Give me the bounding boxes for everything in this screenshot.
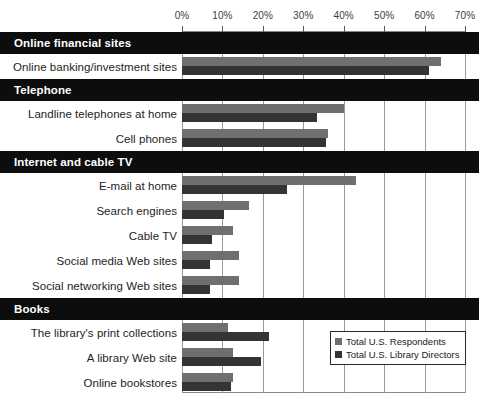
- group-header-row: Telephone: [0, 79, 479, 101]
- bar-total-us-library-directors: [182, 357, 261, 366]
- category-label: Search engines: [96, 205, 177, 217]
- bar-pair: [182, 198, 479, 223]
- x-axis-tick-mark: [263, 26, 264, 32]
- category-label: Cable TV: [129, 230, 177, 242]
- bar-pair: [182, 248, 479, 273]
- bar-total-us-respondents: [182, 201, 249, 210]
- group-header-row: Books: [0, 298, 479, 320]
- category-label: Cell phones: [116, 133, 177, 145]
- category-label: The library's print collections: [31, 327, 177, 339]
- category-label: E-mail at home: [99, 180, 177, 192]
- bar-total-us-library-directors: [182, 382, 231, 391]
- bar-total-us-respondents: [182, 129, 328, 138]
- bar-pair: [182, 370, 479, 395]
- data-row: Social media Web sites: [0, 248, 479, 273]
- group-header-row: Internet and cable TV: [0, 151, 479, 173]
- chart-legend: Total U.S. RespondentsTotal U.S. Library…: [330, 331, 466, 365]
- x-axis-tick-mark: [182, 26, 183, 32]
- bar-pair: [182, 54, 479, 79]
- bar-total-us-respondents: [182, 251, 239, 260]
- data-row: Cable TV: [0, 223, 479, 248]
- bar-total-us-respondents: [182, 226, 233, 235]
- bar-pair: [182, 126, 479, 151]
- bar-total-us-respondents: [182, 323, 228, 332]
- bar-total-us-library-directors: [182, 210, 224, 219]
- bar-total-us-library-directors: [182, 285, 210, 294]
- category-label: A library Web site: [87, 352, 177, 364]
- legend-item: Total U.S. Library Directors: [335, 348, 460, 361]
- data-row: Landline telephones at home: [0, 101, 479, 126]
- bar-total-us-respondents: [182, 57, 441, 66]
- bar-total-us-library-directors: [182, 138, 326, 147]
- bar-pair: [182, 273, 479, 298]
- legend-swatch-icon: [335, 338, 342, 345]
- x-axis-tick-mark: [344, 26, 345, 32]
- bar-pair: [182, 173, 479, 198]
- bar-total-us-library-directors: [182, 66, 429, 75]
- bar-total-us-library-directors: [182, 113, 317, 122]
- legend-swatch-icon: [335, 351, 342, 358]
- horizontal-bar-chart: 0%10%20%30%40%50%60%70% Online financial…: [0, 0, 479, 400]
- data-row: Online banking/investment sites: [0, 54, 479, 79]
- legend-item: Total U.S. Respondents: [335, 335, 460, 348]
- data-row: Search engines: [0, 198, 479, 223]
- category-label: Social networking Web sites: [32, 280, 177, 292]
- group-header-label: Telephone: [14, 84, 72, 96]
- bar-total-us-library-directors: [182, 260, 210, 269]
- bar-pair: [182, 223, 479, 248]
- group-header-label: Internet and cable TV: [14, 156, 132, 168]
- bar-pair: [182, 101, 479, 126]
- x-axis-tick-mark: [425, 26, 426, 32]
- bar-total-us-library-directors: [182, 332, 269, 341]
- bar-total-us-respondents: [182, 104, 344, 113]
- x-axis-tick-mark: [303, 26, 304, 32]
- legend-label: Total U.S. Respondents: [346, 336, 446, 347]
- bar-total-us-respondents: [182, 373, 233, 382]
- category-label: Landline telephones at home: [28, 108, 177, 120]
- category-label: Online banking/investment sites: [13, 61, 177, 73]
- category-label: Social media Web sites: [57, 255, 177, 267]
- bar-total-us-respondents: [182, 276, 239, 285]
- group-header-label: Online financial sites: [14, 37, 131, 49]
- bar-total-us-respondents: [182, 348, 233, 357]
- x-axis-tick-mark: [465, 26, 466, 32]
- data-row: Online bookstores: [0, 370, 479, 395]
- legend-label: Total U.S. Library Directors: [346, 349, 460, 360]
- group-header-label: Books: [14, 303, 50, 315]
- category-label: Online bookstores: [83, 377, 177, 389]
- data-row: E-mail at home: [0, 173, 479, 198]
- data-row: Social networking Web sites: [0, 273, 479, 298]
- x-axis-tick-mark: [222, 26, 223, 32]
- data-row: Cell phones: [0, 126, 479, 151]
- group-header-row: Online financial sites: [0, 32, 479, 54]
- x-axis-tick-mark: [384, 26, 385, 32]
- bar-total-us-respondents: [182, 176, 356, 185]
- bar-total-us-library-directors: [182, 185, 287, 194]
- bar-total-us-library-directors: [182, 235, 212, 244]
